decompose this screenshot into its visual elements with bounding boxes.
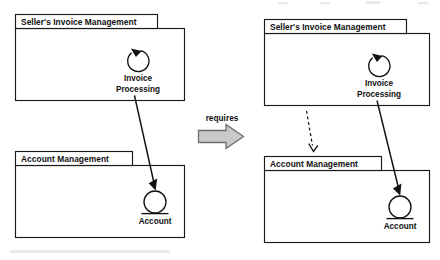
package-title: Account Management (270, 159, 358, 169)
panel-before: Seller's Invoice Management Invoice Proc… (16, 15, 185, 238)
package-body (265, 171, 430, 243)
connection-right-dependency[interactable] (307, 111, 318, 152)
package-diagram-canvas: Seller's Invoice Management Invoice Proc… (0, 0, 440, 260)
package-right-account-management[interactable]: Account Management Account (265, 157, 430, 243)
diagram-svg: Seller's Invoice Management Invoice Proc… (0, 0, 440, 260)
package-left-account-management[interactable]: Account Management Account (16, 152, 185, 238)
transform-requires: requires (199, 113, 244, 149)
package-right-seller-invoice-management[interactable]: Seller's Invoice Management Invoice Proc… (265, 20, 430, 106)
package-title: Seller's Invoice Management (270, 22, 386, 32)
requires-arrow-icon (199, 125, 244, 149)
panel-after: Seller's Invoice Management Invoice Proc… (265, 20, 430, 243)
package-title: Account Management (21, 154, 109, 164)
element-label: Account (384, 222, 417, 231)
package-left-seller-invoice-management[interactable]: Seller's Invoice Management Invoice Proc… (16, 15, 185, 101)
package-body (16, 166, 185, 238)
package-title: Seller's Invoice Management (21, 17, 137, 27)
package-body (265, 34, 430, 106)
element-label-line-2: Processing (116, 85, 160, 94)
element-label-line-2: Processing (357, 90, 401, 99)
requires-label: requires (206, 113, 239, 123)
element-label: Account (139, 217, 172, 226)
element-label-line-1: Invoice (124, 74, 153, 83)
element-label-line-1: Invoice (365, 79, 394, 88)
